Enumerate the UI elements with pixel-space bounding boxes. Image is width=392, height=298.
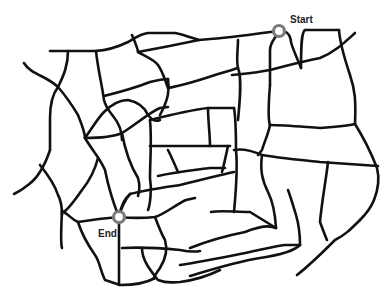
end-point-icon [114, 212, 125, 223]
road [168, 150, 178, 172]
road [237, 40, 240, 120]
road [234, 149, 378, 166]
road [270, 31, 279, 85]
road [258, 125, 270, 155]
road [119, 198, 195, 218]
road [65, 158, 98, 211]
end-label: End [98, 228, 117, 239]
road [40, 165, 62, 215]
road-map: Start End [0, 0, 392, 298]
start-marker: Start [274, 14, 314, 37]
road [234, 108, 237, 212]
road [270, 124, 355, 128]
road [297, 220, 360, 275]
road [232, 33, 355, 75]
road [58, 87, 85, 138]
road [61, 211, 62, 248]
road [148, 120, 151, 210]
road [50, 51, 68, 150]
road [160, 79, 169, 115]
road-network [14, 30, 378, 285]
road [104, 79, 168, 96]
road [168, 68, 238, 88]
start-point-icon [274, 26, 285, 37]
road [261, 155, 276, 228]
start-label: Start [290, 14, 313, 25]
road [208, 108, 210, 146]
end-marker: End [98, 212, 125, 240]
road [138, 40, 199, 52]
road [355, 124, 378, 220]
road [288, 190, 300, 245]
road [158, 168, 225, 176]
road [122, 133, 140, 196]
road [269, 85, 271, 125]
road [320, 162, 328, 240]
road [24, 63, 58, 87]
road [122, 248, 200, 252]
road [85, 107, 168, 138]
road [190, 226, 276, 248]
road [339, 30, 355, 124]
road [62, 211, 119, 222]
